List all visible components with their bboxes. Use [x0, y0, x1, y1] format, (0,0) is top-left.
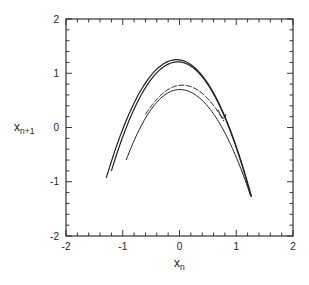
x-tick-label: 2: [290, 241, 296, 252]
x-axis-label: xn: [174, 256, 185, 272]
y-tick-label: 1: [53, 68, 59, 79]
attractor-branch: [126, 90, 250, 196]
y-tick-label: -2: [50, 231, 59, 242]
plot-frame: [66, 19, 293, 236]
chart: -2-1012 -2-1012 xn xn+1: [0, 0, 309, 285]
y-tick-label: 0: [53, 122, 59, 133]
x-tick-label: -2: [62, 241, 71, 252]
y-tick-label: -1: [50, 176, 59, 187]
x-tick-label: 0: [177, 241, 183, 252]
attractor-branch: [111, 62, 251, 197]
x-tick-label: -1: [118, 241, 127, 252]
y-axis-label: xn+1: [14, 120, 35, 136]
attractor-curves: [106, 60, 251, 197]
y-tick-labels: -2-1012: [50, 14, 59, 242]
axis-ticks: [66, 19, 293, 236]
x-tick-label: 1: [233, 241, 239, 252]
y-tick-label: 2: [53, 14, 59, 25]
x-tick-labels: -2-1012: [62, 241, 297, 252]
